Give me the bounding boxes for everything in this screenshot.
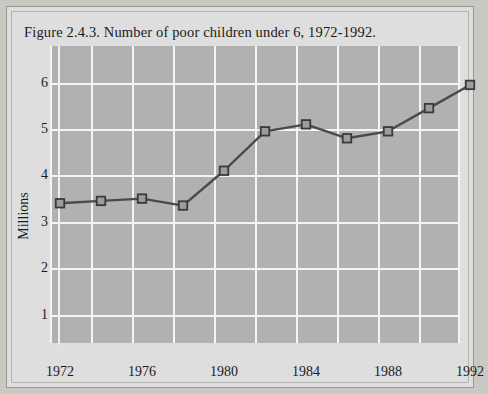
figure-frame-inner: Figure 2.4.3. Number of poor children un… [11, 11, 469, 383]
data-point-marker [343, 134, 352, 143]
data-point-marker [138, 194, 147, 203]
data-point-marker [384, 127, 393, 136]
data-point-marker [220, 167, 229, 176]
series-line [60, 85, 470, 206]
data-point-marker [179, 201, 188, 210]
data-point-marker [466, 81, 475, 90]
data-point-marker [261, 127, 270, 136]
data-point-marker [97, 197, 106, 206]
figure-frame-outer: Figure 2.4.3. Number of poor children un… [6, 6, 474, 388]
series-markers [56, 81, 475, 210]
data-point-marker [302, 120, 311, 129]
data-point-marker [425, 104, 434, 113]
data-point-marker [56, 199, 65, 208]
data-series-layer [12, 12, 488, 394]
